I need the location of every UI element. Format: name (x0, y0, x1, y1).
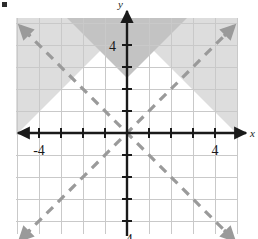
coordinate-plane-svg: 4 -4 4 -4 (0, 0, 258, 239)
y-tick-label-neg4: -4 (121, 232, 133, 239)
x-tick-label-4: 4 (212, 143, 219, 158)
y-axis-label: y (118, 0, 123, 10)
y-tick-label-4: 4 (109, 39, 116, 54)
graph-canvas: 4 -4 4 -4 y x (0, 0, 258, 239)
x-axis-label: x (250, 128, 255, 139)
x-tick-label-neg4: -4 (33, 143, 45, 158)
